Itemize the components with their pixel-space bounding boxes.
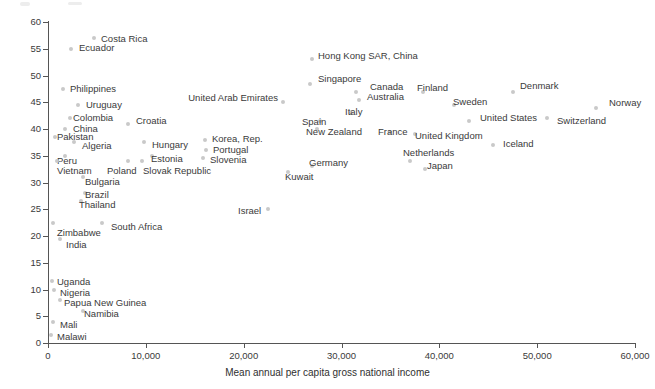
data-point-label: Iceland: [503, 139, 534, 149]
data-point-label: Zimbabwe: [57, 228, 101, 238]
data-point-label: Korea, Rep.: [212, 134, 263, 144]
y-tick-label: 30: [15, 178, 41, 188]
data-point-label: Hungary: [152, 140, 188, 150]
x-tick: [342, 343, 343, 348]
data-point-label: New Zealand: [306, 127, 362, 137]
data-point: [100, 221, 104, 225]
data-point-label: Singapore: [318, 74, 361, 84]
data-point: [511, 90, 515, 94]
x-axis-title: Mean annual per capita gross national in…: [0, 367, 655, 378]
data-point: [92, 36, 96, 40]
y-tick-label: 25: [15, 204, 41, 214]
y-tick-label: 0: [15, 338, 41, 348]
scan-artifact: [68, 2, 82, 5]
data-point-label: Estonia: [151, 154, 183, 164]
data-point-label: Philippines: [70, 84, 116, 94]
data-point-label: United Kingdom: [415, 131, 483, 141]
y-tick-label: 60: [15, 17, 41, 27]
data-point-label: Norway: [609, 98, 641, 108]
data-point-label: South Africa: [111, 222, 162, 232]
data-point-label: Croatia: [136, 116, 167, 126]
y-tick-label: 20: [15, 231, 41, 241]
data-point-label: Colombia: [73, 113, 113, 123]
data-point-label: India: [66, 240, 87, 250]
data-point-label: Slovak Republic: [143, 166, 211, 176]
data-point: [140, 159, 144, 163]
x-tick-label: 10,000: [116, 350, 176, 361]
y-tick-label: 40: [15, 124, 41, 134]
x-tick: [48, 343, 49, 348]
data-point: [354, 90, 358, 94]
data-point-label: United States: [480, 113, 537, 123]
x-tick: [537, 343, 538, 348]
y-tick-label: 45: [15, 97, 41, 107]
data-point-label: Sweden: [453, 97, 487, 107]
data-point-label: Germany: [309, 158, 348, 168]
data-point-label: Finland: [417, 83, 448, 93]
data-point-label: Israel: [238, 206, 261, 216]
data-point: [51, 320, 55, 324]
x-tick-label: 0: [18, 350, 78, 361]
data-point: [203, 138, 207, 142]
data-point: [51, 221, 55, 225]
data-point-label: Japan: [427, 161, 453, 171]
data-point-label: Kuwait: [285, 172, 314, 182]
data-point: [61, 87, 65, 91]
data-point-label: Denmark: [520, 81, 559, 91]
data-point: [126, 122, 130, 126]
data-point: [55, 159, 59, 163]
x-tick: [635, 343, 636, 348]
data-point: [52, 288, 56, 292]
data-point: [58, 237, 62, 241]
data-point-label: Poland: [107, 166, 137, 176]
x-tick: [244, 343, 245, 348]
x-tick: [146, 343, 147, 348]
x-tick-label: 40,000: [409, 350, 469, 361]
y-tick-label: 35: [15, 151, 41, 161]
x-tick-label: 60,000: [605, 350, 655, 361]
data-point-label: Malawi: [57, 332, 87, 342]
y-tick-label: 55: [15, 44, 41, 54]
scan-artifact: [20, 2, 30, 6]
data-point-label: Algeria: [82, 141, 112, 151]
x-tick-label: 20,000: [214, 350, 274, 361]
plot-area: [48, 22, 635, 343]
data-point: [204, 148, 208, 152]
data-point-label: Switzerland: [557, 116, 606, 126]
data-point: [308, 82, 312, 86]
data-point-label: Uruguay: [86, 100, 122, 110]
y-tick-label: 10: [15, 285, 41, 295]
data-point-label: Mali: [60, 320, 77, 330]
data-point-label: Australia: [367, 92, 404, 102]
data-point: [357, 98, 361, 102]
data-point-label: United Arab Emirates: [188, 93, 278, 103]
data-point: [467, 119, 471, 123]
x-tick-label: 50,000: [507, 350, 567, 361]
data-point-label: Slovenia: [210, 155, 246, 165]
data-point-label: Ecuador: [79, 43, 114, 53]
data-point: [68, 116, 72, 120]
data-point-label: Bulgaria: [85, 177, 120, 187]
y-tick-label: 15: [15, 258, 41, 268]
data-point-label: Namibia: [84, 309, 119, 319]
data-point: [58, 298, 62, 302]
x-tick: [439, 343, 440, 348]
y-tick-label: 50: [15, 71, 41, 81]
data-point-label: Papua New Guinea: [64, 298, 146, 308]
data-point: [49, 333, 53, 337]
data-point-label: Hong Kong SAR, China: [318, 51, 418, 61]
data-point-label: Uganda: [57, 277, 90, 287]
data-point-label: Netherlands: [403, 148, 454, 158]
data-point-label: Thailand: [79, 200, 115, 210]
scatter-chart: 051015202530354045505560 010,00020,00030…: [0, 0, 655, 389]
data-point-label: Italy: [345, 107, 362, 117]
x-tick-label: 30,000: [312, 350, 372, 361]
data-point-label: Vietnam: [57, 166, 92, 176]
data-point: [594, 106, 598, 110]
y-tick-label: 5: [15, 311, 41, 321]
data-point-label: France: [378, 127, 408, 137]
